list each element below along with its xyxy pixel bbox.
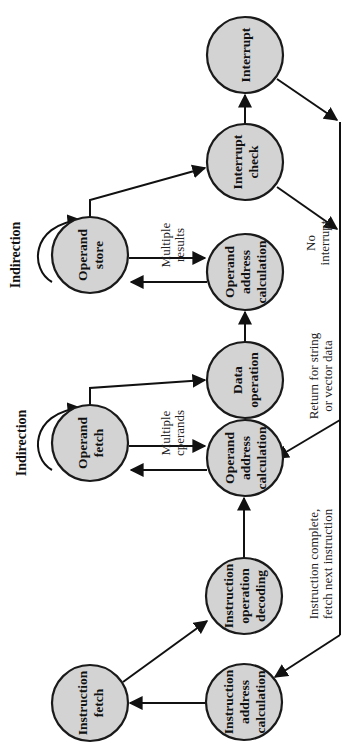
edge-interrupt-bus (277, 79, 337, 120)
svg-text:calculation: calculation (254, 240, 269, 303)
svg-text:Interrupt: Interrupt (230, 134, 245, 189)
svg-text:Operand: Operand (222, 432, 237, 484)
svg-text:fetch: fetch (91, 428, 106, 457)
edge-store-check (90, 168, 205, 217)
node-operand-address-calculation-store: Operand address calculation (207, 234, 283, 310)
node-operand-address-calculation-fetch: Operand address calculation (207, 420, 283, 496)
svg-text:decoding: decoding (253, 570, 268, 622)
svg-text:address: address (237, 680, 252, 724)
node-interrupt-check: Interrupt check (207, 124, 283, 200)
svg-text:Instruction: Instruction (75, 670, 90, 735)
svg-text:cperands: cperands (172, 410, 187, 456)
instruction-cycle-diagram: Interrupt Interrupt check Operand store … (0, 0, 355, 752)
svg-text:address: address (238, 436, 253, 480)
label-return-string-vector: Return for string or vector data (306, 332, 335, 419)
node-data-operation: Data operation (207, 342, 283, 418)
svg-text:Data: Data (230, 366, 245, 394)
node-instruction-address-calculation: Instruction address calculation (206, 664, 282, 740)
label-instruction-complete: Instruction complete, fetch next instruc… (306, 508, 335, 619)
edge-fetch-data (90, 380, 205, 405)
label-multiple-operands: Multiple cperands (158, 410, 187, 456)
svg-text:Multiple: Multiple (158, 222, 173, 267)
label-indirection-store: Indirection (8, 221, 23, 288)
svg-text:Instruction: Instruction (221, 669, 236, 734)
node-interrupt: Interrupt (207, 17, 283, 93)
svg-text:Instruction complete,: Instruction complete, (306, 509, 321, 619)
svg-text:operation: operation (246, 352, 261, 408)
node-instruction-operation-decoding: Instruction operation decoding (206, 558, 282, 634)
svg-text:results: results (172, 228, 187, 262)
node-instruction-fetch: Instruction fetch (52, 665, 128, 741)
svg-text:Operand: Operand (75, 229, 90, 281)
svg-text:calculation: calculation (253, 670, 268, 733)
edge-fetch-decode (123, 621, 207, 682)
svg-text:interrupt: interrupt (317, 220, 332, 265)
svg-text:check: check (246, 145, 261, 178)
node-operand-store: Operand store (52, 217, 128, 293)
node-operand-fetch: Operand fetch (52, 405, 128, 481)
svg-text:address: address (238, 250, 253, 294)
svg-text:Operand: Operand (75, 417, 90, 469)
svg-text:operation: operation (237, 568, 252, 624)
svg-text:No: No (303, 235, 318, 251)
svg-text:Operand: Operand (222, 246, 237, 298)
svg-text:fetch: fetch (91, 688, 106, 717)
svg-text:store: store (91, 241, 106, 269)
edge-bus-instr-addr (275, 635, 340, 677)
edge-bus-oac-fetch (276, 420, 340, 458)
svg-text:fetch next instruction: fetch next instruction (320, 508, 335, 619)
svg-text:calculation: calculation (254, 426, 269, 489)
svg-text:Interrupt: Interrupt (238, 27, 253, 82)
edges (38, 79, 340, 703)
svg-text:Instruction: Instruction (221, 563, 236, 628)
svg-text:Multiple: Multiple (158, 410, 173, 455)
label-multiple-results: Multiple results (158, 222, 187, 267)
svg-text:Return for string: Return for string (306, 332, 321, 419)
label-indirection-fetch: Indirection (14, 409, 29, 476)
svg-text:or vector data: or vector data (320, 340, 335, 412)
label-no-interrupt: No interrupt (303, 220, 332, 265)
